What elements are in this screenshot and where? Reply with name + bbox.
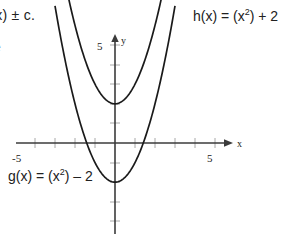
x-axis-right-tick-label: 5	[207, 152, 213, 164]
x-axis-name-label: x	[237, 138, 242, 149]
y-axis-top-tick-label: 5	[97, 40, 103, 52]
y-axis	[111, 34, 118, 234]
x-axis	[16, 139, 233, 147]
graph-screenshot: f(x) ± c. e h(x) = (x2) + 2 g(x) = (x2) …	[0, 0, 287, 234]
cartesian-plot: -5 5 5 x y	[0, 0, 287, 234]
y-axis-name-label: y	[121, 35, 126, 46]
x-axis-left-tick-label: -5	[12, 152, 22, 164]
